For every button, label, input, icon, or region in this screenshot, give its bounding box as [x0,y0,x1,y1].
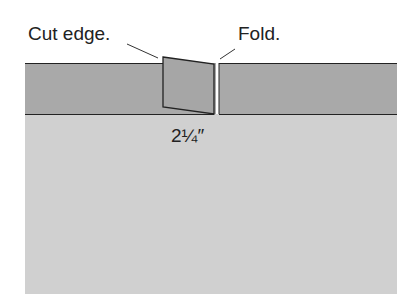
folded-flap [163,57,214,114]
cut-edge-leader [127,44,158,58]
measurement-label: 2¼″ [171,125,204,147]
fabric-background [25,114,397,294]
cut-edge-label: Cut edge. [28,23,110,45]
fold-label: Fold. [238,23,280,45]
diagram-canvas [0,0,409,304]
fold-leader [220,49,235,59]
binding-strip-right [219,63,397,114]
